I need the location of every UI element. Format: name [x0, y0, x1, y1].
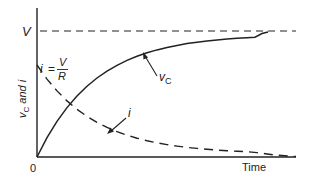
- vc-curve: [37, 32, 268, 157]
- vc-annotation: vC: [143, 52, 172, 86]
- svg-text:=: =: [48, 62, 55, 76]
- y-axis-label: vC and i: [16, 79, 31, 118]
- x-axis-label: Time: [242, 161, 266, 173]
- svg-text:i: i: [40, 62, 43, 76]
- v-asymptote-label: V: [22, 24, 32, 39]
- i-annotation: i: [107, 106, 131, 134]
- svg-text:R: R: [58, 70, 66, 82]
- rc-charging-diagram: V i = V R vC i vC and i 0 Time: [0, 0, 311, 183]
- svg-text:i: i: [128, 106, 131, 120]
- svg-text:vC: vC: [159, 70, 172, 86]
- initial-current-label: i = V R: [40, 56, 68, 82]
- origin-label: 0: [30, 162, 36, 174]
- svg-text:V: V: [59, 56, 68, 68]
